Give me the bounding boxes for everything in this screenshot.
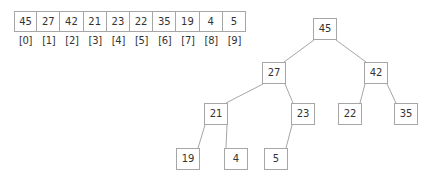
array-index-label: [3] xyxy=(84,34,107,48)
array-index-label: [1] xyxy=(37,34,60,48)
tree-node: 21 xyxy=(204,103,228,125)
tree-node: 5 xyxy=(264,148,288,170)
array-cell: 21 xyxy=(83,11,107,32)
array-to-binary-tree-diagram: 452742212322351945 [0][1][2][3][4][5][6]… xyxy=(0,0,432,179)
array-cell: 45 xyxy=(14,11,37,32)
tree-edge xyxy=(284,40,314,62)
tree-edge xyxy=(226,125,227,148)
array-index-label: [4] xyxy=(107,34,130,48)
array-cell: 4 xyxy=(199,11,223,32)
array-index-label: [2] xyxy=(60,34,83,48)
array-cell: 42 xyxy=(59,11,83,32)
tree-node: 23 xyxy=(291,103,315,125)
tree-edge xyxy=(360,84,365,103)
tree-node: 27 xyxy=(262,62,286,84)
array-index-label: [9] xyxy=(223,34,246,48)
array-index-label: [5] xyxy=(130,34,153,48)
tree-node: 19 xyxy=(176,148,200,170)
tree-edge xyxy=(336,40,366,62)
array-cell: 19 xyxy=(175,11,199,32)
tree-node: 4 xyxy=(224,148,248,170)
tree-node: 22 xyxy=(338,103,362,125)
array-index-label: [6] xyxy=(153,34,176,48)
tree-node: 42 xyxy=(364,62,388,84)
array-index-label: [7] xyxy=(176,34,199,48)
tree-edge xyxy=(387,84,396,103)
array-cell: 23 xyxy=(106,11,130,32)
array-index-label: [0] xyxy=(14,34,37,48)
tree-node: 35 xyxy=(394,103,418,125)
tree-edge xyxy=(226,84,263,103)
array-cell: 35 xyxy=(152,11,176,32)
tree-node: 45 xyxy=(313,18,337,40)
array-cell: 5 xyxy=(222,11,246,32)
array-cell: 22 xyxy=(129,11,153,32)
array-cell: 27 xyxy=(36,11,60,32)
array-index-label: [8] xyxy=(200,34,223,48)
tree-edge xyxy=(286,125,292,148)
tree-edge xyxy=(285,84,293,103)
tree-edge xyxy=(198,125,205,148)
